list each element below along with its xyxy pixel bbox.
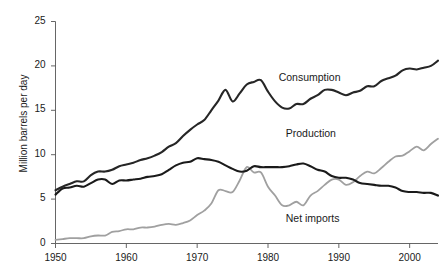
series-line-net-imports — [56, 139, 439, 240]
x-tick-label: 1970 — [177, 252, 217, 263]
x-tick-label: 1960 — [106, 252, 146, 263]
y-tick-label: 5 — [22, 192, 46, 203]
x-tick-label: 2000 — [390, 252, 430, 263]
series-line-production — [56, 158, 439, 195]
series-label-consumption: Consumption — [279, 71, 341, 83]
x-tick-label: 1950 — [36, 252, 76, 263]
axis-ticks — [51, 22, 410, 249]
series-lines — [56, 61, 439, 240]
y-tick-label: 20 — [22, 59, 46, 70]
series-label-production: Production — [286, 127, 336, 139]
y-tick-label: 10 — [22, 148, 46, 159]
x-tick-label: 1990 — [319, 252, 359, 263]
y-tick-label: 0 — [22, 237, 46, 248]
axes-lines — [56, 22, 439, 244]
y-tick-label: 25 — [22, 15, 46, 26]
x-tick-label: 1980 — [248, 252, 288, 263]
plot-area — [0, 0, 446, 271]
chart-figure: Million barrels per day 0510152025 19501… — [0, 0, 446, 271]
series-label-net-imports: Net imports — [286, 212, 340, 224]
y-tick-label: 15 — [22, 103, 46, 114]
